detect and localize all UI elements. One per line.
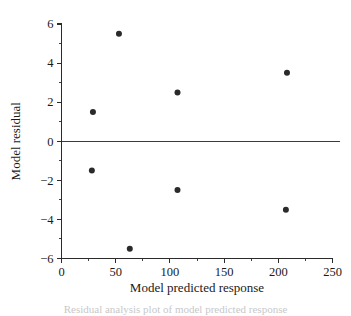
x-axis-label: Model predicted response bbox=[130, 280, 265, 295]
y-tick-label-1: −4 bbox=[40, 213, 54, 227]
data-point bbox=[174, 89, 180, 95]
data-point bbox=[116, 31, 122, 37]
y-axis-label: Model residual bbox=[8, 102, 23, 181]
y-tick-label-4: 2 bbox=[47, 95, 53, 109]
scatter-plot-canvas: −6−4−20246050100150200250Model predicted… bbox=[0, 0, 351, 316]
data-point bbox=[127, 246, 133, 252]
x-tick-label-0: 0 bbox=[58, 265, 64, 279]
data-point bbox=[89, 168, 95, 174]
x-tick-label-4: 200 bbox=[269, 265, 288, 279]
data-point bbox=[174, 187, 180, 193]
data-point bbox=[90, 109, 96, 115]
x-tick-label-2: 100 bbox=[161, 265, 180, 279]
x-tick-label-5: 250 bbox=[323, 265, 342, 279]
data-point bbox=[283, 207, 289, 213]
y-tick-label-3: 0 bbox=[47, 135, 53, 149]
caption-text: Residual analysis plot of model predicte… bbox=[0, 302, 351, 316]
y-tick-label-2: −2 bbox=[40, 174, 53, 188]
y-tick-label-5: 4 bbox=[47, 56, 54, 70]
x-tick-label-3: 150 bbox=[215, 265, 234, 279]
y-tick-label-0: −6 bbox=[40, 252, 53, 266]
y-tick-label-6: 6 bbox=[47, 17, 53, 31]
figure-caption: Residual analysis plot of model predicte… bbox=[0, 302, 351, 316]
residual-plot-figure: −6−4−20246050100150200250Model predicted… bbox=[0, 0, 351, 316]
x-tick-label-1: 50 bbox=[109, 265, 122, 279]
data-point bbox=[284, 70, 290, 76]
